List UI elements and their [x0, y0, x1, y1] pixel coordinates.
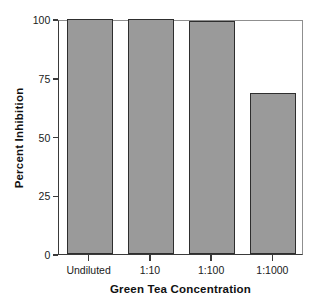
- x-axis-tick-mark: [88, 255, 90, 261]
- x-axis-tick-label: Undiluted: [66, 263, 110, 277]
- y-axis-tick-group: 0255075100: [0, 0, 58, 305]
- x-axis-tick-mark: [149, 255, 151, 261]
- x-axis-tick-label: 1:1000: [256, 263, 288, 277]
- y-axis-tick: 75: [39, 73, 58, 85]
- bars-layer: [59, 21, 302, 254]
- x-axis-label-group: Undiluted1:101:1001:1000: [58, 263, 303, 279]
- y-axis-tick-label: 50: [39, 132, 51, 144]
- plot-area: [58, 20, 303, 255]
- y-axis-tick-label: 0: [45, 249, 51, 261]
- bar: [128, 19, 174, 254]
- y-axis-tick: 50: [39, 132, 58, 144]
- x-axis-tick-mark: [210, 255, 212, 261]
- y-axis-tick-label: 25: [39, 190, 51, 202]
- x-axis-tick-group: [58, 255, 303, 263]
- bar: [67, 19, 113, 254]
- x-axis-tick-mark: [272, 255, 274, 261]
- bar: [250, 93, 296, 254]
- bar-chart: Percent Inhibition 0255075100 Undiluted1…: [0, 0, 319, 305]
- bar: [189, 21, 235, 254]
- x-axis-tick-label: 1:10: [140, 263, 160, 277]
- y-axis-tick-label: 100: [33, 14, 51, 26]
- x-axis-tick-label: 1:100: [198, 263, 224, 277]
- y-axis-tick-label: 75: [39, 73, 51, 85]
- x-axis-title: Green Tea Concentration: [58, 283, 303, 295]
- y-axis-tick: 100: [33, 14, 58, 26]
- y-axis-tick: 25: [39, 190, 58, 202]
- y-axis-tick: 0: [45, 249, 58, 261]
